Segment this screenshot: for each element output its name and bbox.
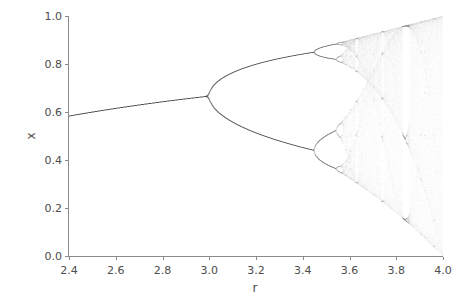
x-tick-label: 3.4: [294, 264, 312, 277]
bifurcation-figure: x 0.00.20.40.60.81.0 2.42.62.83.03.23.43…: [0, 0, 463, 301]
x-axis-label-container: r: [68, 277, 442, 296]
x-tick-mark: [69, 257, 70, 260]
y-tick-mark: [65, 16, 68, 17]
y-tick-label: 0.8: [45, 58, 63, 71]
x-tick-label: 3.2: [247, 264, 265, 277]
plot-axes: 0.00.20.40.60.81.0 2.42.62.83.03.23.43.6…: [68, 16, 443, 257]
x-tick-mark: [116, 257, 117, 260]
x-axis-label: r: [253, 281, 258, 295]
y-tick-mark: [65, 208, 68, 209]
x-tick-label: 2.6: [107, 264, 125, 277]
y-axis-label: x: [24, 132, 38, 139]
y-tick-label: 0.6: [45, 106, 63, 119]
x-tick-label: 2.4: [60, 264, 78, 277]
y-tick-mark: [65, 256, 68, 257]
x-tick-mark: [396, 257, 397, 260]
x-tick-mark: [443, 257, 444, 260]
x-tick-label: 4.0: [434, 264, 452, 277]
bifurcation-plot-canvas: [69, 16, 443, 256]
x-tick-label: 3.8: [388, 264, 406, 277]
x-tick-mark: [256, 257, 257, 260]
x-tick-mark: [163, 257, 164, 260]
y-tick-mark: [65, 160, 68, 161]
y-axis-label-container: x: [24, 16, 38, 256]
y-tick-label: 0.0: [45, 250, 63, 263]
y-tick-label: 0.2: [45, 202, 63, 215]
y-tick-label: 0.4: [45, 154, 63, 167]
x-tick-label: 3.0: [201, 264, 219, 277]
x-tick-label: 2.8: [154, 264, 172, 277]
y-tick-mark: [65, 64, 68, 65]
x-tick-mark: [209, 257, 210, 260]
y-tick-label: 1.0: [45, 10, 63, 23]
x-tick-mark: [350, 257, 351, 260]
x-tick-mark: [303, 257, 304, 260]
y-tick-mark: [65, 112, 68, 113]
x-tick-label: 3.6: [341, 264, 359, 277]
